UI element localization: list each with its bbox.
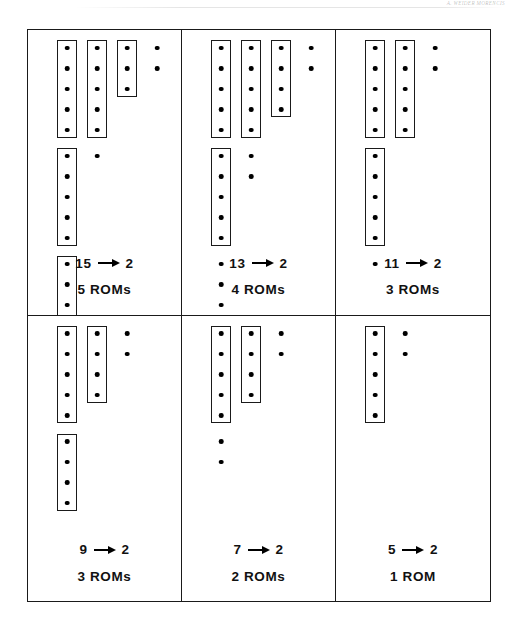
rom-count-label: 1 ROM: [336, 570, 490, 584]
dot-column-stage-1: [364, 30, 386, 280]
dot-column-stage-4: [300, 30, 322, 280]
dot-diagram: [336, 30, 490, 280]
rom-count-label: 2 ROMs: [182, 570, 335, 584]
arrow-right-icon: [252, 259, 274, 268]
dot-column-stage-1: [56, 30, 78, 280]
dot: [155, 46, 160, 51]
rom-group-box: [211, 326, 231, 424]
arrow-right-icon: [402, 545, 424, 554]
dot-diagram: [28, 316, 181, 566]
dot: [219, 460, 224, 465]
dot-column-stage-3: [116, 30, 138, 280]
panel-caption: 923 ROMs: [28, 543, 181, 583]
dot: [309, 66, 314, 71]
panel-9-to-2: 923 ROMs: [28, 316, 182, 602]
panel-7-to-2: 722 ROMs: [182, 316, 336, 602]
rom-group-box: [211, 148, 231, 246]
rom-group-box: [271, 40, 291, 117]
dot-column-stage-1: [210, 30, 232, 280]
map-to-value: 2: [276, 543, 284, 557]
running-head-text: A. WEIDER MORENCIS: [447, 0, 505, 6]
map-from-value: 9: [79, 543, 87, 557]
map-from-value: 5: [388, 543, 396, 557]
mapping-label: 92: [28, 543, 181, 557]
rom-count-label: 4 ROMs: [182, 283, 335, 297]
panel-grid: 1525 ROMs1324 ROMs1123 ROMs923 ROMs722 R…: [28, 30, 490, 601]
figure-frame: 1525 ROMs1324 ROMs1123 ROMs923 ROMs722 R…: [27, 29, 491, 602]
rom-group-box: [57, 434, 77, 511]
dot-column-stage-3: [270, 316, 292, 566]
map-to-value: 2: [434, 257, 442, 271]
rom-group-box: [241, 326, 261, 403]
dot-column-stage-1: [56, 316, 78, 566]
mapping-label: 112: [336, 257, 490, 271]
dot: [403, 352, 408, 357]
dot-diagram: [28, 30, 181, 280]
panel-caption: 1324 ROMs: [182, 257, 335, 297]
map-to-value: 2: [126, 257, 134, 271]
map-to-value: 2: [430, 543, 438, 557]
dot: [95, 154, 100, 159]
rom-group-box: [57, 148, 77, 246]
mapping-label: 72: [182, 543, 335, 557]
dot: [219, 303, 224, 308]
dot: [249, 154, 254, 159]
rom-group-box: [365, 40, 385, 138]
rom-group-box: [57, 326, 77, 424]
rom-group-box: [57, 40, 77, 138]
arrow-right-icon: [94, 545, 116, 554]
dot-column-stage-2: [394, 316, 416, 566]
dot: [125, 352, 130, 357]
dot-column-stage-1: [210, 316, 232, 566]
arrow-right-icon: [98, 259, 120, 268]
arrow-right-icon: [248, 545, 270, 554]
panel-caption: 1123 ROMs: [336, 257, 490, 297]
dot-column-stage-2: [86, 316, 108, 566]
dot-column-stage-3: [270, 30, 292, 280]
map-to-value: 2: [280, 257, 288, 271]
dot-diagram: [336, 316, 490, 566]
dot-column-stage-1: [364, 316, 386, 566]
dot-column-stage-2: [86, 30, 108, 280]
rom-group-box: [211, 40, 231, 138]
panel-caption: 722 ROMs: [182, 543, 335, 583]
dot: [403, 331, 408, 336]
dot: [249, 174, 254, 179]
map-from-value: 13: [229, 257, 245, 271]
rom-count-label: 3 ROMs: [336, 283, 490, 297]
rom-group-box: [241, 40, 261, 138]
mapping-label: 152: [28, 257, 181, 271]
mapping-label: 52: [336, 543, 490, 557]
rom-count-label: 3 ROMs: [28, 570, 181, 584]
map-to-value: 2: [122, 543, 130, 557]
dot-diagram: [182, 30, 335, 280]
dot: [125, 331, 130, 336]
map-from-value: 11: [384, 257, 399, 271]
rom-group-box: [87, 40, 107, 138]
mapping-label: 132: [182, 257, 335, 271]
running-head-rule: [74, 7, 504, 8]
dot: [279, 331, 284, 336]
dot-column-stage-3: [424, 30, 446, 280]
panel-caption: 521 ROM: [336, 543, 490, 583]
dot: [155, 66, 160, 71]
dot: [219, 439, 224, 444]
rom-group-box: [87, 326, 107, 403]
arrow-right-icon: [406, 259, 428, 268]
rom-group-box: [365, 326, 385, 424]
dot-column-stage-2: [240, 30, 262, 280]
rom-count-label: 5 ROMs: [28, 283, 181, 297]
dot: [433, 66, 438, 71]
panel-caption: 1525 ROMs: [28, 257, 181, 297]
dot-column-stage-4: [146, 30, 168, 280]
dot-column-stage-2: [240, 316, 262, 566]
rom-group-box: [365, 148, 385, 246]
panel-5-to-2: 521 ROM: [336, 316, 490, 602]
dot-column-stage-2: [394, 30, 416, 280]
panel-13-to-2: 1324 ROMs: [182, 30, 336, 316]
panel-11-to-2: 1123 ROMs: [336, 30, 490, 316]
map-from-value: 7: [233, 543, 241, 557]
map-from-value: 15: [75, 257, 91, 271]
dot: [309, 46, 314, 51]
rom-group-box: [395, 40, 415, 138]
